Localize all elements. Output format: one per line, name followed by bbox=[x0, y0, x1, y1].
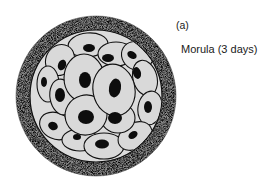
morula-diagram bbox=[0, 0, 270, 186]
figure-caption: Morula (3 days) bbox=[181, 43, 257, 55]
panel-label: (a) bbox=[176, 19, 189, 31]
